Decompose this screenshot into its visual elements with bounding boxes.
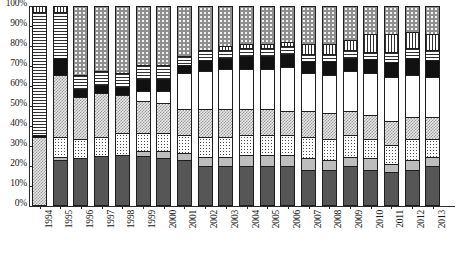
bar-segment-vertical-stripes — [54, 7, 67, 13]
x-tick-mark — [267, 206, 268, 209]
bar-segment-checkered — [199, 110, 212, 138]
bar-segment-checkered — [95, 94, 108, 138]
x-tick-mark — [102, 206, 103, 209]
bar-segment-light-gray — [219, 158, 232, 168]
bar-segment-coarse-dots — [95, 7, 108, 72]
bar-segment-white — [281, 68, 294, 112]
bar-segment-light-gray — [426, 158, 439, 168]
bar-segment-fine-dotted — [385, 146, 398, 166]
bar-segment-checkered — [281, 112, 294, 136]
bar-segment-dark-gray — [54, 161, 67, 205]
bar-segment-coarse-dots — [302, 7, 315, 45]
bar-segment-light-gray — [199, 158, 212, 168]
stacked-bar-chart: 0%10%20%30%40%50%60%70%80%90%100% 199419… — [0, 0, 468, 257]
bar-segment-checkered — [74, 98, 87, 140]
x-tick-mark — [81, 206, 82, 209]
bar-segment-light-gray — [281, 156, 294, 168]
bar-segment-black — [33, 136, 46, 138]
bar-segment-horizontal-stripes — [178, 57, 191, 67]
x-tick-mark — [205, 206, 206, 209]
bar-2011 — [384, 6, 399, 206]
bar-segment-white — [219, 70, 232, 110]
bar-segment-dark-gray — [178, 161, 191, 205]
bar-segment-vertical-stripes — [219, 47, 232, 51]
bar-1995 — [53, 6, 68, 206]
bar-segment-light-gray — [261, 156, 274, 168]
bar-segment-checkered — [406, 118, 419, 140]
bar-segment-coarse-dots — [364, 7, 377, 35]
bar-segment-black — [74, 90, 87, 98]
bar-segment-black — [95, 86, 108, 94]
bar-2003 — [218, 6, 233, 206]
bar-segment-horizontal-stripes — [137, 66, 150, 80]
bar-segment-checkered — [157, 104, 170, 134]
x-tick-mark — [122, 206, 123, 209]
bar-segment-dark-gray — [302, 171, 315, 205]
bar-2012 — [405, 6, 420, 206]
bar-segment-black — [385, 63, 398, 79]
bar-segment-vertical-stripes — [323, 45, 336, 55]
bar-segment-light-gray — [178, 154, 191, 162]
bar-segment-light-gray — [364, 159, 377, 171]
bar-segment-fine-dotted — [178, 136, 191, 154]
bar-2004 — [239, 6, 254, 206]
bar-segment-dark-gray — [199, 167, 212, 205]
bar-segment-white — [323, 76, 336, 114]
bar-segment-checkered — [261, 110, 274, 136]
y-tick-label: 0% — [15, 199, 27, 209]
bar-segment-coarse-dots — [426, 7, 439, 35]
y-tick-label: 50% — [10, 99, 27, 109]
bar-segment-white — [406, 76, 419, 118]
bar-segment-vertical-stripes — [385, 35, 398, 53]
bar-segment-dark-gray — [261, 167, 274, 205]
y-tick-label: 10% — [10, 179, 27, 189]
bar-segment-light-gray — [385, 165, 398, 173]
bar-2013 — [425, 6, 440, 206]
x-tick-mark — [433, 206, 434, 209]
bar-segment-white — [426, 78, 439, 118]
bar-segment-dark-gray — [95, 157, 108, 205]
bar-segment-fine-dotted — [302, 138, 315, 160]
bar-segment-horizontal-stripes — [157, 66, 170, 80]
bar-segment-coarse-dots — [344, 7, 357, 41]
bar-2009 — [343, 6, 358, 206]
bar-segment-black — [344, 59, 357, 73]
bar-segment-checkered — [33, 138, 46, 205]
bar-segment-vertical-stripes — [240, 45, 253, 49]
bar-segment-dark-gray — [116, 156, 129, 206]
bar-segment-vertical-stripes — [426, 35, 439, 51]
y-tick-label: 70% — [10, 59, 27, 69]
x-tick-mark — [288, 206, 289, 209]
bar-segment-fine-dotted — [364, 140, 377, 160]
bar-segment-dark-gray — [323, 171, 336, 205]
bar-segment-horizontal-stripes — [199, 51, 212, 61]
figure-caption — [0, 250, 468, 257]
bar-2001 — [177, 6, 192, 206]
bar-2008 — [322, 6, 337, 206]
bar-segment-coarse-dots — [157, 7, 170, 66]
bar-segment-checkered — [219, 110, 232, 138]
bar-segment-black — [323, 62, 336, 76]
bar-segment-dark-gray — [406, 171, 419, 205]
bar-segment-dark-gray — [385, 173, 398, 205]
bar-1998 — [115, 6, 130, 206]
bar-segment-horizontal-stripes — [240, 49, 253, 57]
bar-segment-checkered — [426, 118, 439, 140]
x-tick-mark — [164, 206, 165, 209]
bar-segment-coarse-dots — [178, 7, 191, 57]
x-tick-mark — [143, 206, 144, 209]
bar-segment-fine-dotted — [219, 138, 232, 158]
bar-segment-vertical-stripes — [406, 33, 419, 49]
bar-segment-dark-gray — [344, 167, 357, 205]
bar-segment-fine-dotted — [261, 136, 274, 156]
y-tick-label: 60% — [10, 79, 27, 89]
bar-segment-dark-gray — [137, 157, 150, 205]
bar-segment-checkered — [344, 112, 357, 136]
bar-segment-horizontal-stripes — [406, 49, 419, 59]
x-tick-mark — [184, 206, 185, 209]
x-tick-mark — [371, 206, 372, 209]
bar-segment-black — [302, 62, 315, 74]
bar-segment-light-gray — [240, 156, 253, 168]
bar-segment-horizontal-stripes — [364, 53, 377, 61]
bar-segment-black — [178, 66, 191, 74]
